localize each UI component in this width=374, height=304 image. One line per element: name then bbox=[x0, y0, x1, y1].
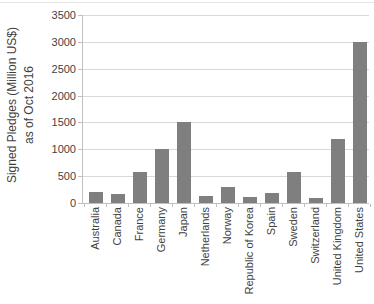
x-label: Netherlands bbox=[195, 207, 215, 297]
y-tick-mark bbox=[78, 203, 82, 204]
x-label: Sweden bbox=[283, 207, 303, 297]
x-label: Canada bbox=[107, 207, 127, 297]
y-tick-label: 1500 bbox=[36, 115, 76, 129]
bar-australia bbox=[89, 192, 103, 203]
bar-canada bbox=[111, 194, 125, 203]
x-label: United Kingdom bbox=[327, 207, 347, 297]
y-axis-title-line1: Signed Pledges (Million US$) bbox=[4, 5, 21, 205]
gridline-1500 bbox=[83, 122, 369, 123]
x-tick-mark bbox=[216, 204, 217, 207]
x-tick-mark bbox=[304, 204, 305, 207]
x-tick-mark bbox=[370, 204, 371, 207]
bar-sweden bbox=[287, 172, 301, 203]
x-tick-mark bbox=[84, 204, 85, 207]
x-tick-mark bbox=[348, 204, 349, 207]
x-label: France bbox=[129, 207, 149, 297]
bar-republic-of-korea bbox=[243, 197, 257, 203]
bar-germany bbox=[155, 149, 169, 203]
gridline-2500 bbox=[83, 69, 369, 70]
x-tick-mark bbox=[326, 204, 327, 207]
gridline-3500 bbox=[83, 15, 369, 16]
gridline-1000 bbox=[83, 149, 369, 150]
x-label: Germany bbox=[151, 207, 171, 297]
bar-france bbox=[133, 172, 147, 203]
bar-switzerland bbox=[309, 198, 323, 203]
gridline-500 bbox=[83, 176, 369, 177]
gridline-3000 bbox=[83, 42, 369, 43]
x-label: Australia bbox=[85, 207, 105, 297]
x-tick-mark bbox=[172, 204, 173, 207]
x-tick-mark bbox=[128, 204, 129, 207]
y-tick-mark bbox=[78, 149, 82, 150]
y-tick-mark bbox=[78, 176, 82, 177]
y-tick-label: 0 bbox=[36, 196, 76, 210]
plot-area bbox=[82, 15, 369, 204]
x-label: United States bbox=[349, 207, 369, 297]
y-tick-label: 500 bbox=[36, 169, 76, 183]
x-label: Spain bbox=[261, 207, 281, 297]
x-label: Switzerland bbox=[305, 207, 325, 297]
bar-united-states bbox=[353, 42, 367, 203]
y-tick-mark bbox=[78, 15, 82, 16]
y-tick-mark bbox=[78, 69, 82, 70]
y-tick-label: 1000 bbox=[36, 142, 76, 156]
top-border-line bbox=[0, 2, 374, 3]
bar-united-kingdom bbox=[331, 139, 345, 203]
bar-spain bbox=[265, 193, 279, 203]
y-tick-mark bbox=[78, 122, 82, 123]
y-tick-label: 2500 bbox=[36, 62, 76, 76]
bar-chart: Signed Pledges (Million US$) as of Oct 2… bbox=[0, 0, 374, 304]
x-label: Norway bbox=[217, 207, 237, 297]
y-tick-mark bbox=[78, 42, 82, 43]
bar-japan bbox=[177, 122, 191, 203]
x-label: Japan bbox=[173, 207, 193, 297]
x-label: Republic of Korea bbox=[239, 207, 259, 297]
bar-norway bbox=[221, 187, 235, 203]
x-tick-mark bbox=[106, 204, 107, 207]
y-tick-label: 3000 bbox=[36, 35, 76, 49]
y-tick-label: 2000 bbox=[36, 89, 76, 103]
x-tick-mark bbox=[238, 204, 239, 207]
x-tick-mark bbox=[150, 204, 151, 207]
x-tick-mark bbox=[260, 204, 261, 207]
x-tick-mark bbox=[282, 204, 283, 207]
bar-netherlands bbox=[199, 196, 213, 203]
y-axis-title: Signed Pledges (Million US$) as of Oct 2… bbox=[4, 5, 38, 205]
gridline-2000 bbox=[83, 96, 369, 97]
x-tick-mark bbox=[194, 204, 195, 207]
y-tick-mark bbox=[78, 96, 82, 97]
y-tick-label: 3500 bbox=[36, 8, 76, 22]
